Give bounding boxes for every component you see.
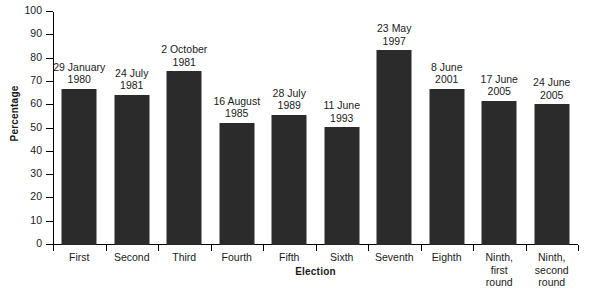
- y-tick-label: 0: [36, 237, 42, 249]
- bar-date-label: 11 June1993: [323, 99, 360, 124]
- bars-group: 29 January198024 July19812 October198116…: [53, 12, 578, 245]
- x-category-label: Second: [106, 251, 159, 264]
- x-category-label-line: Eighth: [421, 251, 474, 264]
- bar-date-label-line: 28 July: [273, 87, 306, 99]
- y-tick-label: 50: [30, 121, 42, 133]
- bar-date-label-line: 16 August: [213, 95, 260, 107]
- x-category-label-line: round: [526, 276, 579, 289]
- bar-slot: 2 October1981: [158, 12, 211, 245]
- bar[interactable]: [114, 95, 149, 245]
- y-tick-label: 80: [30, 51, 42, 63]
- x-category-label-line: Sixth: [316, 251, 369, 264]
- bar-slot: 17 June2005: [473, 12, 526, 245]
- bar-date-label: 8 June2001: [431, 61, 463, 86]
- y-tick: 80: [46, 58, 53, 59]
- bar[interactable]: [377, 50, 412, 245]
- bar-date-label: 24 June2005: [533, 76, 570, 101]
- y-tick: 0: [46, 244, 53, 245]
- bar-slot: 8 June2001: [421, 12, 474, 245]
- y-tick: 70: [46, 81, 53, 82]
- x-axis-title: Election: [53, 266, 578, 277]
- y-tick-label: 100: [24, 4, 42, 16]
- y-tick-label: 60: [30, 97, 42, 109]
- x-category-label: Fifth: [263, 251, 316, 264]
- plot-area: 0102030405060708090100 29 January198024 …: [53, 12, 578, 245]
- y-tick: 40: [46, 151, 53, 152]
- bar-date-label: 2 October1981: [161, 43, 207, 68]
- x-category-label-line: round: [473, 276, 526, 289]
- y-tick: 30: [46, 174, 53, 175]
- bar-slot: 29 January1980: [53, 12, 106, 245]
- bar-date-label-line: 24 July: [115, 67, 148, 79]
- bar-date-label: 16 August1985: [213, 95, 260, 120]
- x-tick: [578, 245, 579, 251]
- x-category-label-line: Fifth: [263, 251, 316, 264]
- bar[interactable]: [167, 71, 202, 245]
- x-category-label-line: Seventh: [368, 251, 421, 264]
- x-category-label-line: Ninth,: [526, 251, 579, 264]
- bar-chart: Percentage 0102030405060708090100 29 Jan…: [0, 0, 592, 295]
- y-tick: 90: [46, 34, 53, 35]
- bar-date-label-line: 2005: [481, 85, 518, 98]
- y-tick: 100: [46, 11, 53, 12]
- y-axis-title: Percentage: [9, 74, 20, 154]
- bar-date-label-line: 11 June: [323, 99, 360, 111]
- x-category-label-line: Second: [106, 251, 159, 264]
- bar-date-label-line: 17 June: [481, 73, 518, 85]
- bar-slot: 11 June1993: [316, 12, 369, 245]
- x-category-label: Third: [158, 251, 211, 264]
- y-tick-label: 90: [30, 27, 42, 39]
- x-category-label-line: Fourth: [211, 251, 264, 264]
- y-tick: 50: [46, 128, 53, 129]
- x-category-label: Seventh: [368, 251, 421, 264]
- x-category-label-line: Third: [158, 251, 211, 264]
- y-tick-label: 30: [30, 167, 42, 179]
- bar-date-label-line: 2 October: [161, 43, 207, 55]
- bar-date-label: 28 July1989: [273, 87, 306, 112]
- bar[interactable]: [482, 101, 517, 245]
- bar-date-label-line: 8 June: [431, 61, 463, 73]
- y-tick-label: 40: [30, 144, 42, 156]
- bar-slot: 24 June2005: [526, 12, 579, 245]
- bar-date-label-line: 2005: [533, 89, 570, 102]
- y-tick-label: 10: [30, 214, 42, 226]
- bar-date-label-line: 1981: [161, 56, 207, 69]
- bar-date-label-line: 2001: [431, 73, 463, 86]
- x-category-label-line: First: [53, 251, 106, 264]
- y-tick: 10: [46, 221, 53, 222]
- bar[interactable]: [324, 127, 359, 245]
- bar-date-label-line: 1981: [115, 79, 148, 92]
- bar-date-label-line: 1989: [273, 99, 306, 112]
- bar-date-label: 29 January1980: [53, 61, 105, 86]
- y-tick: 20: [46, 197, 53, 198]
- x-category-label: First: [53, 251, 106, 264]
- x-category-label: Sixth: [316, 251, 369, 264]
- bar-date-label: 17 June2005: [481, 73, 518, 98]
- y-tick-label: 70: [30, 74, 42, 86]
- bar-date-label-line: 24 June: [533, 76, 570, 88]
- bar-date-label-line: 23 May: [377, 22, 411, 34]
- y-tick: 60: [46, 104, 53, 105]
- bar-date-label-line: 1997: [377, 35, 411, 48]
- bar-date-label-line: 1993: [323, 112, 360, 125]
- bar[interactable]: [219, 123, 254, 245]
- bar[interactable]: [62, 89, 97, 245]
- bar-slot: 28 July1989: [263, 12, 316, 245]
- bar-date-label-line: 1980: [53, 73, 105, 86]
- y-tick-label: 20: [30, 190, 42, 202]
- x-category-label-line: Ninth,: [473, 251, 526, 264]
- bar-date-label: 23 May1997: [377, 22, 411, 47]
- bar-slot: 24 July1981: [106, 12, 159, 245]
- bar-date-label-line: 29 January: [53, 61, 105, 73]
- bar[interactable]: [272, 115, 307, 245]
- bar[interactable]: [534, 104, 569, 245]
- bar-date-label: 24 July1981: [115, 67, 148, 92]
- bar-date-label-line: 1985: [213, 107, 260, 120]
- bar-slot: 16 August1985: [211, 12, 264, 245]
- x-category-label: Eighth: [421, 251, 474, 264]
- x-category-label: Fourth: [211, 251, 264, 264]
- bar[interactable]: [429, 89, 464, 245]
- bar-slot: 23 May1997: [368, 12, 421, 245]
